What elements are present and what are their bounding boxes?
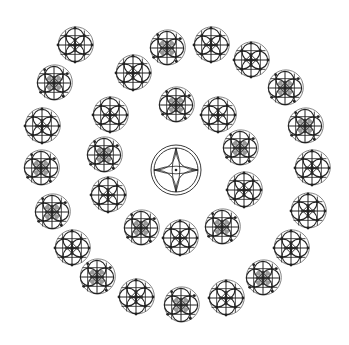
rosette-motif-icon: [200, 97, 237, 134]
rosette-motif-icon: [37, 65, 72, 100]
rosette-motif-icon: [159, 87, 194, 122]
rosette-motif-icon: [87, 137, 122, 172]
rosette-motif-icon: [208, 280, 245, 317]
rosette-motif-icon: [226, 172, 263, 209]
rosette-motif-icon: [273, 230, 310, 267]
rosette-motif-icon: [118, 279, 155, 316]
rosette-motif-icon: [223, 130, 258, 165]
rosette-motif-icon: [164, 287, 199, 322]
rosette-motif-icon: [193, 27, 230, 64]
inner-ring-rosettes: [87, 55, 262, 257]
rosette-ring-artwork: [0, 0, 349, 345]
rosette-motif-icon: [90, 177, 127, 214]
rosette-motif-icon: [124, 210, 159, 245]
outer-ring-rosettes: [24, 27, 331, 322]
rosette-motif-icon: [233, 42, 270, 79]
rosette-motif-icon: [150, 30, 185, 65]
center-quatrefoil-icon: [151, 145, 201, 195]
rosette-motif-icon: [35, 194, 70, 229]
rosette-motif-icon: [57, 27, 94, 64]
rosette-motif-icon: [162, 220, 199, 257]
rosette-motif-icon: [205, 209, 240, 244]
rosette-motif-icon: [290, 193, 327, 230]
rosette-motif-icon: [246, 260, 281, 295]
rosette-motif-icon: [80, 259, 115, 294]
rosette-motif-icon: [92, 97, 129, 134]
rosette-motif-icon: [115, 55, 152, 92]
rosette-motif-icon: [24, 150, 59, 185]
rosette-motif-icon: [294, 150, 331, 187]
tracery-pattern-canvas: [0, 0, 349, 345]
rosette-motif-icon: [288, 108, 323, 143]
rosette-motif-icon: [268, 70, 303, 105]
rosette-motif-icon: [24, 108, 61, 145]
rosette-motif-icon: [54, 230, 91, 267]
